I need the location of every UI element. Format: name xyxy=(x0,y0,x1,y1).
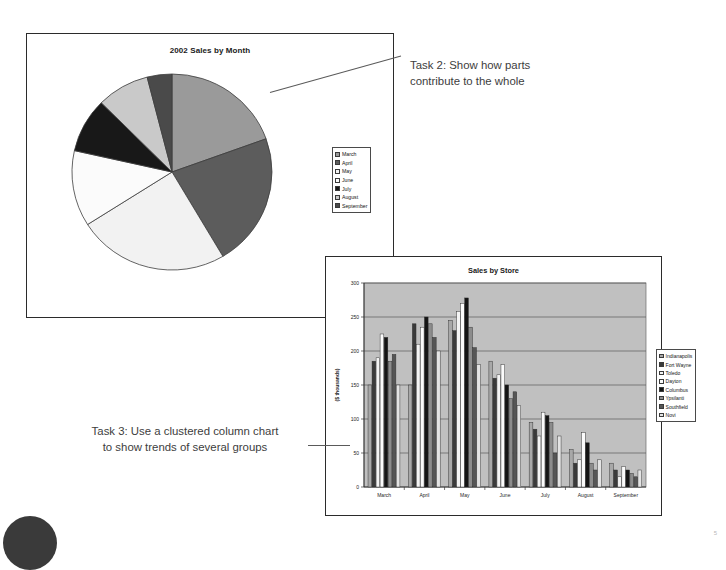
bar-legend-swatch xyxy=(659,404,664,409)
pie-legend-item: September xyxy=(335,202,367,211)
pie-legend-label: September xyxy=(342,203,367,209)
pie-chart-legend: MarchAprilMayJuneJulyAugustSeptember xyxy=(332,147,371,213)
pie-legend-swatch xyxy=(335,203,340,208)
svg-text:100: 100 xyxy=(351,416,360,422)
svg-text:March: March xyxy=(377,492,391,498)
svg-text:April: April xyxy=(419,492,429,498)
bar-legend-swatch xyxy=(659,413,664,418)
bar-legend-label: Columbus xyxy=(666,387,689,393)
task3-leader-line xyxy=(308,445,350,446)
pie-legend-label: April xyxy=(342,160,352,166)
pie-legend-item: June xyxy=(335,176,367,185)
bar-legend-label: Dayton xyxy=(666,378,682,384)
svg-text:June: June xyxy=(500,492,511,498)
task2-line1: Task 2: Show how parts xyxy=(410,58,620,74)
pie-legend-item: April xyxy=(335,159,367,168)
bar-legend-item: Columbus xyxy=(659,386,692,394)
bar-legend-label: Ypsilanti xyxy=(666,395,685,401)
bar-legend-item: Dayton xyxy=(659,377,692,385)
bar-legend-item: Fort Wayne xyxy=(659,360,692,368)
pie-legend-label: June xyxy=(342,177,353,183)
pie-legend-item: May xyxy=(335,167,367,176)
bar-legend-item: Indianapolis xyxy=(659,352,692,360)
bar-legend-label: Fort Wayne xyxy=(666,362,692,368)
pie-legend-swatch xyxy=(335,160,340,165)
bar-legend-label: Indianapolis xyxy=(666,353,693,359)
corner-decoration-circle xyxy=(3,516,57,570)
pie-legend-swatch xyxy=(335,152,340,157)
bar-chart-title: Sales by Store xyxy=(326,266,661,275)
svg-text:250: 250 xyxy=(351,314,360,320)
bar-legend-swatch xyxy=(659,379,664,384)
svg-text:150: 150 xyxy=(351,382,360,388)
pie-legend-item: July xyxy=(335,184,367,193)
bar-legend-label: Novi xyxy=(666,412,676,418)
bar-legend-item: Ypsilanti xyxy=(659,394,692,402)
svg-text:($ thousands): ($ thousands) xyxy=(334,368,340,401)
pie-legend-item: August xyxy=(335,193,367,202)
pie-legend-swatch xyxy=(335,178,340,183)
task3-annotation: Task 3: Use a clustered column chart to … xyxy=(62,424,308,455)
pie-legend-swatch xyxy=(335,186,340,191)
bar-chart-legend: IndianapolisFort WayneToledoDaytonColumb… xyxy=(656,349,696,422)
pie-legend-swatch xyxy=(335,169,340,174)
bar-legend-swatch xyxy=(659,354,664,359)
bar-legend-swatch xyxy=(659,387,664,392)
pie-legend-label: March xyxy=(342,151,356,157)
pie-legend-label: August xyxy=(342,194,358,200)
bar-legend-item: Toledo xyxy=(659,369,692,377)
bar-chart-panel[interactable]: Sales by Store 050100150200250300($ thou… xyxy=(325,256,662,516)
svg-text:May: May xyxy=(460,492,470,498)
bar-legend-label: Toledo xyxy=(666,370,681,376)
svg-text:300: 300 xyxy=(351,280,360,286)
task2-line2: contribute to the whole xyxy=(410,74,620,90)
pie-chart-title: 2002 Sales by Month xyxy=(27,46,393,55)
bar-legend-swatch xyxy=(659,362,664,367)
pie-legend-label: May xyxy=(342,168,352,174)
pie-legend-label: July xyxy=(342,186,351,192)
task3-line1: Task 3: Use a clustered column chart xyxy=(62,424,308,440)
bar-legend-swatch xyxy=(659,371,664,376)
svg-text:0: 0 xyxy=(356,484,359,490)
bar-chart-graphic: 050100150200250300($ thousands)MarchApri… xyxy=(330,277,656,509)
pie-chart-graphic xyxy=(69,72,279,272)
pie-legend-swatch xyxy=(335,195,340,200)
svg-text:August: August xyxy=(578,492,594,498)
svg-text:July: July xyxy=(541,492,550,498)
svg-text:50: 50 xyxy=(353,450,359,456)
svg-text:200: 200 xyxy=(351,348,360,354)
svg-text:September: September xyxy=(614,492,639,498)
task2-annotation: Task 2: Show how parts contribute to the… xyxy=(410,58,620,89)
bar-legend-item: Novi xyxy=(659,411,692,419)
bar-legend-swatch xyxy=(659,396,664,401)
bar-legend-label: Southfield xyxy=(666,404,688,410)
pie-legend-item: March xyxy=(335,150,367,159)
page-number: 5 xyxy=(714,530,717,536)
task3-line2: to show trends of several groups xyxy=(62,440,308,456)
bar-legend-item: Southfield xyxy=(659,402,692,410)
